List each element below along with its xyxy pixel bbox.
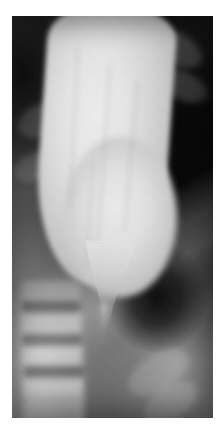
dilated-esophagus [12,16,213,418]
radiograph-page [0,0,224,435]
radiograph-plate [12,16,213,418]
distal-barium-streak [96,305,108,354]
